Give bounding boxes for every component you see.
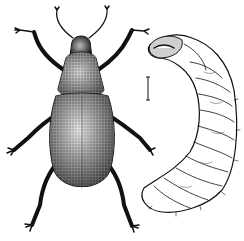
adult-weevil xyxy=(7,6,155,232)
illustration: Black-and-white engraving of a weevil be… xyxy=(0,0,244,241)
weevil-and-larva-drawing xyxy=(0,0,244,241)
larva-grub xyxy=(142,35,240,216)
scale-bar xyxy=(146,77,150,100)
